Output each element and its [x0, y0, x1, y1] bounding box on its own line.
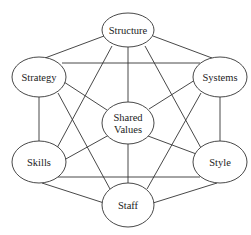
edge-structure-skills [57, 46, 112, 148]
node-shared-values: SharedValues [102, 102, 154, 144]
edge-structure-systems [153, 36, 212, 58]
node-label-line2: Values [114, 124, 142, 135]
node-style: Style [193, 141, 247, 183]
edge-structure-style [145, 46, 201, 148]
edge-skills-staff [42, 183, 104, 203]
node-skills: Skills [12, 141, 66, 183]
node-structure: Structure [102, 13, 154, 47]
edge-skills-shared-values [64, 135, 109, 160]
edge-style-staff [153, 183, 217, 203]
node-ellipse [102, 102, 154, 144]
node-strategy: Strategy [12, 57, 66, 97]
diagram-canvas: StructureStrategySystemsSharedValuesSkil… [0, 0, 251, 235]
node-systems: Systems [193, 57, 247, 97]
node-label: Style [209, 157, 231, 168]
node-label: Shared [113, 112, 143, 123]
node-label: Staff [118, 200, 139, 211]
edge-style-shared-values [148, 136, 199, 155]
node-label: Strategy [22, 72, 58, 83]
mckinsey-7s-diagram: StructureStrategySystemsSharedValuesSkil… [0, 0, 251, 235]
nodes-layer: StructureStrategySystemsSharedValuesSkil… [12, 13, 247, 227]
node-label: Skills [27, 157, 51, 168]
edge-structure-strategy [45, 36, 104, 58]
node-staff: Staff [102, 183, 154, 227]
node-label: Systems [202, 72, 237, 83]
node-label: Structure [109, 25, 148, 36]
edge-systems-staff [147, 93, 201, 189]
